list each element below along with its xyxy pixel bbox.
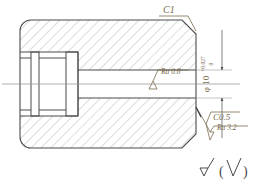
basic-surface-symbol-icon: [227, 158, 241, 176]
surface-finish-bore-label: Ra 0.8: [160, 67, 181, 76]
surface-finish-chamfer-label: Ra 3.2: [216, 123, 237, 132]
diameter-text-group: φ 10 +0.027 0: [200, 56, 214, 92]
bore-lower-tolerance: 0: [208, 62, 214, 65]
chamfer-bottom-label: C0.5: [213, 112, 231, 122]
surface-finish-chamfer: Ra 3.2: [206, 123, 248, 140]
drawing-sheet: C1 φ 10 +0.027 0 Ra 0.8 C0.5 Ra 3.2: [0, 0, 257, 185]
bore-upper-tolerance: +0.027: [200, 56, 206, 72]
technical-drawing-canvas: C1 φ 10 +0.027 0 Ra 0.8 C0.5 Ra 3.2: [0, 0, 257, 185]
bracket-close-label: ): [243, 164, 248, 180]
chamfer-callout-bottom: C0.5: [196, 107, 240, 124]
general-surface-finish-note: ( ): [200, 158, 248, 180]
part-body-section: [18, 18, 200, 152]
machined-surface-symbol-icon: [200, 158, 214, 176]
leader-arrow-c05: [196, 107, 201, 117]
chamfer-top-label: C1: [163, 4, 175, 15]
bracket-open-label: (: [219, 164, 224, 180]
bore-nominal-label: φ 10: [201, 75, 211, 92]
